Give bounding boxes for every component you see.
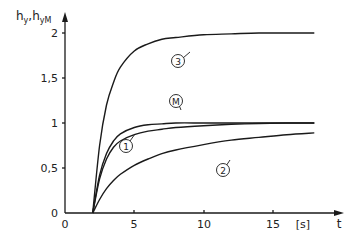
x-tick-labels: 0 5 10 15 [s] t — [62, 217, 342, 231]
curve-markers — [120, 52, 231, 177]
marker-2-label: 2 — [220, 166, 226, 176]
x-tick-0: 0 — [62, 218, 69, 231]
x-unit-label: [s] — [296, 218, 310, 231]
y-tick-1: 1 — [51, 117, 58, 130]
curve-1 — [93, 123, 315, 213]
marker-1-label: 1 — [123, 142, 129, 152]
y-axis-title: hy,hyM — [16, 9, 52, 25]
y-axis-arrow-icon — [62, 12, 68, 22]
y-tick-0-5: 0,5 — [41, 162, 59, 175]
y-tick-labels: 0 0,5 1 1,5 2 — [41, 27, 59, 220]
x-axis-title: t — [337, 217, 342, 231]
marker-m-label: M — [172, 97, 180, 107]
y-tick-2: 2 — [51, 27, 58, 40]
x-tick-5: 5 — [131, 218, 138, 231]
curve-m — [93, 123, 315, 213]
x-tick-10: 10 — [197, 218, 211, 231]
marker-labels: 3 M 1 2 — [123, 57, 226, 176]
x-tick-15: 15 — [266, 218, 280, 231]
marker-3-label: 3 — [175, 57, 181, 67]
step-response-chart: 0 0,5 1 1,5 2 0 5 10 15 [s] t hy,hyM 3 M… — [0, 0, 358, 243]
y-tick-0: 0 — [51, 207, 58, 220]
x-axis-arrow-icon — [334, 210, 344, 216]
curves — [93, 33, 315, 213]
y-tick-1-5: 1,5 — [41, 72, 59, 85]
